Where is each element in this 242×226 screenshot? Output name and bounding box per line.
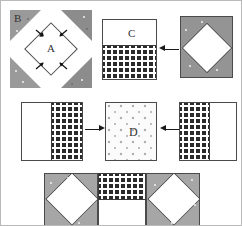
fabric-speck <box>16 30 18 32</box>
label-b: B <box>14 13 21 24</box>
fabric-speck <box>226 47 228 49</box>
fabric-speck <box>83 16 85 18</box>
arrow-left-row1 <box>159 45 179 53</box>
label-c: C <box>128 28 135 39</box>
label-a: A <box>47 43 55 54</box>
half-checked-right <box>51 103 82 160</box>
fabric-speck <box>189 65 191 67</box>
square-white-check-left <box>21 102 83 161</box>
fabric-speck <box>216 69 218 71</box>
square-c: C <box>102 19 157 80</box>
fabric-speck <box>154 184 156 186</box>
fabric-speck <box>171 222 173 224</box>
assembled-unit-left <box>44 173 98 226</box>
arrow-inward-bottom-right <box>57 59 66 68</box>
fabric-speck <box>50 182 52 184</box>
fabric-speck <box>191 179 193 181</box>
arrow-left-row2 <box>160 125 180 133</box>
fabric-speck <box>15 70 17 72</box>
fabric-speck <box>201 21 203 23</box>
fabric-speck <box>74 26 76 28</box>
label-d: D <box>129 126 138 138</box>
fabric-speck <box>194 204 196 206</box>
assembled-unit-center-top <box>98 173 146 200</box>
half-white-left <box>22 103 51 160</box>
fabric-speck <box>78 222 80 224</box>
half-white-right <box>209 103 236 160</box>
row1-diamond-assembly-group: B A <box>10 10 92 88</box>
square-d: D <box>105 102 157 161</box>
fabric-speck <box>71 83 73 85</box>
inner-white-diamond <box>45 173 98 226</box>
assembled-unit-right <box>146 173 200 226</box>
half-checked-left <box>180 103 209 160</box>
gray-square-with-white-diamond-row1 <box>180 16 233 78</box>
fabric-speck <box>185 29 187 31</box>
fabric-speck <box>67 177 69 179</box>
assembled-unit-center-bottom <box>98 200 146 226</box>
square-check-white-right <box>179 102 237 161</box>
fabric-speck <box>27 18 29 20</box>
arrow-inward-top-left <box>35 29 44 38</box>
row3-assembled-block <box>44 173 200 226</box>
fabric-speck <box>81 79 83 81</box>
arrow-inward-top-right <box>57 29 66 38</box>
diagram-canvas: B A <box>0 0 242 226</box>
arrow-inward-bottom-left <box>35 59 44 68</box>
arrow-right-row2 <box>85 125 105 133</box>
fabric-speck <box>86 28 88 30</box>
square-c-bottom-half <box>103 45 156 79</box>
fabric-speck <box>22 81 24 83</box>
fabric-speck <box>91 201 93 203</box>
